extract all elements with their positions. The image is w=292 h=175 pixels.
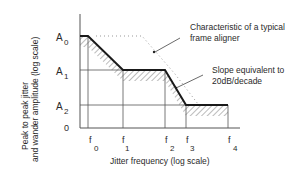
svg-text:Peak to peak jitter: Peak to peak jitter <box>20 82 30 150</box>
frame-aligner-pointer <box>155 38 180 52</box>
frame-aligner-annotation: Characteristic of a typical frame aligne… <box>190 22 285 43</box>
svg-text:f: f <box>186 135 189 145</box>
jitter-tolerance-diagram: A 0 A 1 A 2 0 f 0 f 1 f 2 f 3 f 4 Jitter… <box>0 0 292 175</box>
svg-text:frame aligner: frame aligner <box>190 33 240 43</box>
svg-text:2: 2 <box>64 107 69 116</box>
svg-text:0: 0 <box>64 38 69 47</box>
svg-text:4: 4 <box>233 144 238 153</box>
x-tick-f1: f 1 <box>122 135 130 153</box>
y-tick-zero: 0 <box>64 123 69 133</box>
svg-text:A: A <box>56 66 63 77</box>
svg-text:A: A <box>56 32 63 43</box>
svg-text:0: 0 <box>94 144 99 153</box>
svg-text:3: 3 <box>190 144 195 153</box>
y-tick-a1: A 1 <box>56 66 69 81</box>
svg-text:2: 2 <box>170 144 175 153</box>
x-tick-f4: f 4 <box>228 135 238 153</box>
x-axis-label: Jitter frequency (log scale) <box>110 156 210 166</box>
y-axis-label: Peak to peak jitter and wander amplitude… <box>20 37 40 162</box>
jitter-tolerance-curve <box>80 36 228 105</box>
frame-aligner-pointer-dot <box>153 51 155 53</box>
svg-text:f: f <box>89 135 92 145</box>
slope-annotation: Slope equivalent to 20dB/decade <box>212 65 285 86</box>
svg-text:Characteristic of a typical: Characteristic of a typical <box>190 22 285 32</box>
slope-pointer <box>176 75 203 88</box>
svg-text:1: 1 <box>125 144 130 153</box>
svg-text:f: f <box>165 135 168 145</box>
svg-text:and wander amplitude (log scal: and wander amplitude (log scale) <box>30 37 40 162</box>
y-tick-a0: A 0 <box>56 32 69 47</box>
svg-text:1: 1 <box>64 72 69 81</box>
svg-text:20dB/decade: 20dB/decade <box>212 76 262 86</box>
x-tick-f0: f 0 <box>89 135 99 153</box>
slope-pointer-dot <box>175 87 177 89</box>
svg-text:A: A <box>56 101 63 112</box>
x-tick-f2: f 2 <box>165 135 175 153</box>
svg-text:f: f <box>228 135 231 145</box>
svg-text:Slope equivalent to: Slope equivalent to <box>212 65 285 75</box>
x-tick-f3: f 3 <box>186 135 195 153</box>
y-tick-a2: A 2 <box>56 101 69 116</box>
svg-text:0: 0 <box>64 123 69 133</box>
